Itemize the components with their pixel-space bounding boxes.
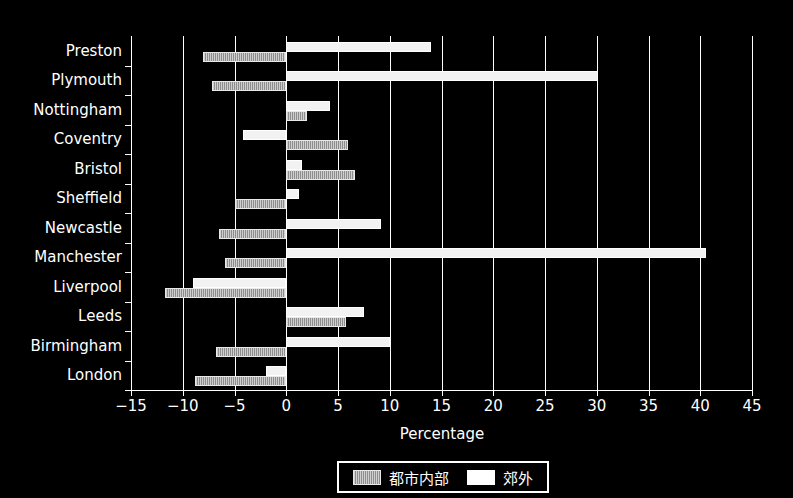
x-axis-tick-label: −10 bbox=[167, 397, 199, 415]
gridline bbox=[183, 36, 184, 390]
bar-inner-city bbox=[286, 170, 354, 180]
y-axis-tick-label: Bristol bbox=[74, 160, 122, 178]
x-axis-tick bbox=[390, 390, 391, 396]
bar-suburbs bbox=[193, 278, 286, 288]
y-axis-tick bbox=[125, 154, 132, 155]
bar-suburbs bbox=[286, 71, 598, 81]
y-axis-tick-label: Leeds bbox=[78, 307, 122, 325]
x-axis-tick bbox=[597, 390, 598, 396]
x-axis-tick-label: 15 bbox=[432, 397, 451, 415]
y-axis-tick bbox=[125, 331, 132, 332]
x-axis-tick-label: 0 bbox=[281, 397, 291, 415]
x-axis-title: Percentage bbox=[131, 425, 753, 443]
x-axis-tick bbox=[286, 390, 287, 396]
x-axis-tick-label: 30 bbox=[587, 397, 606, 415]
chart-legend: 都市内部 郊外 bbox=[337, 461, 549, 493]
y-axis-tick bbox=[125, 66, 132, 67]
y-axis-tick-label: Sheffield bbox=[56, 189, 122, 207]
y-axis-tick bbox=[125, 213, 132, 214]
bar-suburbs bbox=[243, 130, 286, 140]
bar-suburbs bbox=[286, 337, 390, 347]
bar-inner-city bbox=[216, 347, 286, 357]
y-axis-tick-label: Liverpool bbox=[53, 278, 122, 296]
legend-swatch-inner-city bbox=[353, 470, 381, 485]
y-axis-tick-label: Manchester bbox=[34, 248, 122, 266]
y-axis-tick bbox=[125, 95, 132, 96]
bar-inner-city bbox=[286, 140, 348, 150]
legend-swatch-suburbs bbox=[467, 470, 495, 485]
gridline bbox=[649, 36, 650, 390]
x-axis-tick-label: 45 bbox=[742, 397, 761, 415]
y-axis-tick bbox=[125, 125, 132, 126]
x-axis-tick bbox=[183, 390, 184, 396]
x-axis-tick-label: 20 bbox=[484, 397, 503, 415]
gridline bbox=[390, 36, 391, 390]
gridline bbox=[700, 36, 701, 390]
y-axis-tick-label: Nottingham bbox=[33, 101, 122, 119]
bar-suburbs bbox=[286, 101, 329, 111]
x-axis-tick bbox=[235, 390, 236, 396]
bar-inner-city bbox=[203, 52, 286, 62]
x-axis-tick bbox=[700, 390, 701, 396]
y-axis-tick-label: Newcastle bbox=[45, 219, 122, 237]
bar-suburbs bbox=[286, 248, 706, 258]
legend-label-suburbs: 郊外 bbox=[503, 467, 533, 488]
gridline bbox=[493, 36, 494, 390]
x-axis-tick-label: 35 bbox=[639, 397, 658, 415]
bar-inner-city bbox=[219, 229, 286, 239]
bar-inner-city bbox=[286, 111, 307, 121]
y-axis-tick-label: Preston bbox=[66, 42, 122, 60]
legend-entry-inner-city: 都市内部 bbox=[353, 467, 449, 488]
gridline bbox=[597, 36, 598, 390]
y-axis-tick bbox=[125, 243, 132, 244]
bar-suburbs bbox=[266, 366, 287, 376]
x-axis-tick bbox=[442, 390, 443, 396]
x-axis-tick bbox=[493, 390, 494, 396]
y-axis-labels: PrestonPlymouthNottinghamCoventryBristol… bbox=[0, 0, 122, 498]
y-axis-tick bbox=[125, 361, 132, 362]
y-axis-tick-label: Birmingham bbox=[31, 337, 122, 355]
y-axis-tick bbox=[125, 184, 132, 185]
bar-suburbs bbox=[286, 307, 364, 317]
bar-suburbs bbox=[286, 219, 381, 229]
x-axis-tick bbox=[649, 390, 650, 396]
bar-inner-city bbox=[165, 288, 286, 298]
x-axis-tick-label: −15 bbox=[115, 397, 147, 415]
legend-label-inner-city: 都市内部 bbox=[389, 467, 449, 488]
y-axis-tick-label: Plymouth bbox=[51, 71, 122, 89]
plot-area bbox=[131, 36, 752, 390]
x-axis-tick-label: −5 bbox=[223, 397, 245, 415]
x-axis-tick-label: 25 bbox=[535, 397, 554, 415]
y-axis-tick-label: London bbox=[67, 366, 122, 384]
bar-inner-city bbox=[225, 258, 286, 268]
x-axis-tick bbox=[545, 390, 546, 396]
y-axis-tick bbox=[125, 302, 132, 303]
gridline bbox=[442, 36, 443, 390]
y-axis-tick-label: Coventry bbox=[54, 130, 122, 148]
legend-entry-suburbs: 郊外 bbox=[467, 467, 533, 488]
gridline bbox=[545, 36, 546, 390]
gridline bbox=[752, 36, 753, 390]
bar-suburbs bbox=[286, 42, 431, 52]
x-axis-tick bbox=[752, 390, 753, 396]
y-axis-tick bbox=[125, 272, 132, 273]
x-axis-tick-label: 5 bbox=[333, 397, 343, 415]
bar-suburbs bbox=[286, 189, 298, 199]
x-axis-tick bbox=[338, 390, 339, 396]
bar-inner-city bbox=[286, 317, 346, 327]
bar-inner-city bbox=[195, 376, 286, 386]
x-axis-tick-label: 40 bbox=[691, 397, 710, 415]
bar-inner-city bbox=[235, 199, 287, 209]
chart-figure: PrestonPlymouthNottinghamCoventryBristol… bbox=[0, 0, 793, 498]
y-axis-tick bbox=[125, 390, 132, 391]
bar-inner-city bbox=[212, 81, 287, 91]
bar-suburbs bbox=[286, 160, 302, 170]
x-axis-tick-label: 10 bbox=[380, 397, 399, 415]
